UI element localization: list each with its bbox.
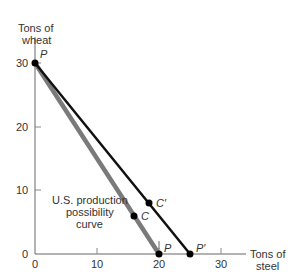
y-tick-label-0: 0 (22, 248, 28, 260)
point-P-top (32, 60, 39, 67)
x-tick-label-20: 20 (153, 258, 165, 270)
x-tick-label-10: 10 (91, 258, 103, 270)
x-axis-title-line2: steel (256, 260, 279, 272)
annotation-line1: U.S. production (52, 194, 128, 206)
trade-possibility-line (35, 63, 190, 254)
label-P-top: P (40, 48, 48, 60)
point-P-prime (187, 251, 194, 258)
label-P-bottom: P (164, 242, 172, 254)
point-P-bottom (156, 251, 163, 258)
y-tick-label-10: 10 (16, 184, 28, 196)
point-C-prime (146, 200, 153, 207)
y-tick-label-30: 30 (16, 57, 28, 69)
label-C: C (141, 210, 149, 222)
y-axis-title-line1: Tons of (18, 22, 54, 34)
x-tick-label-0: 0 (32, 258, 38, 270)
label-P-prime: P′ (196, 242, 206, 254)
annotation-line3: curve (76, 218, 103, 230)
y-axis-title-line2: wheat (21, 34, 51, 46)
x-axis-title-line1: Tons of (250, 248, 286, 260)
label-C-prime: C′ (156, 197, 167, 209)
x-tick-label-30: 30 (215, 258, 227, 270)
point-C (131, 213, 138, 220)
y-tick-label-20: 20 (16, 121, 28, 133)
production-possibility-chart: 0 10 20 30 0 10 20 30 Tons of wheat Tons… (0, 0, 297, 279)
annotation-line2: possibility (66, 206, 114, 218)
